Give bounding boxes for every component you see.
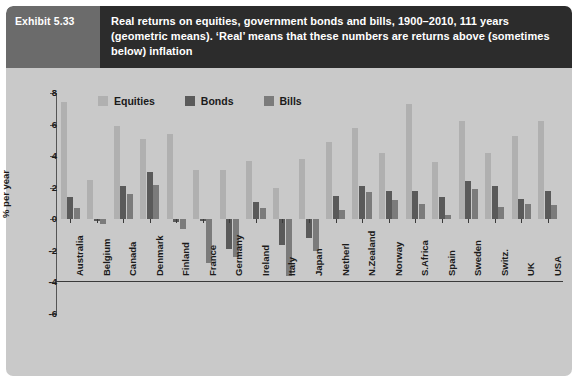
x-axis-label-australia: Australia: [74, 236, 85, 277]
bar-bonds-usa: [545, 191, 551, 219]
bar-bonds-netherl: [333, 196, 339, 220]
bar-equities-france: [193, 170, 199, 219]
bar-bills-spain: [445, 215, 451, 220]
bar-bills-belgium: [100, 219, 106, 224]
y-axis-tick: -6: [6, 314, 57, 315]
x-axis-label-switz: Switz.: [499, 249, 510, 276]
x-axis-tick-mark: [415, 219, 416, 223]
bar-equities-japan: [299, 159, 305, 219]
bar-equities-uk: [512, 136, 518, 220]
bar-bills-japan: [313, 219, 319, 251]
x-axis-label-japan: Japan: [313, 249, 324, 276]
y-axis-tick-label: -4: [31, 276, 57, 287]
y-axis-tick-label: 8: [31, 87, 57, 98]
bar-bonds-ireland: [253, 202, 259, 219]
x-axis-tick-mark: [548, 219, 549, 223]
bar-equities-switz: [485, 153, 491, 219]
bar-bonds-sweden: [465, 181, 471, 219]
bar-bonds-australia: [67, 197, 73, 219]
x-axis-tick-mark: [495, 219, 496, 223]
bar-equities-belgium: [87, 180, 93, 219]
bar-equities-nzealand: [352, 128, 358, 220]
bar-bills-canada: [127, 194, 133, 219]
y-axis-tick-label: 4: [31, 150, 57, 161]
x-axis-label-sweden: Sweden: [472, 240, 483, 276]
x-axis-tick-mark: [521, 219, 522, 223]
exhibit-figure: Exhibit 5.33 Real returns on equities, g…: [0, 0, 578, 382]
exhibit-header: Exhibit 5.33 Real returns on equities, g…: [6, 6, 572, 68]
x-axis-label-denmark: Denmark: [154, 236, 165, 277]
x-axis-tick-mark: [97, 219, 98, 223]
bar-equities-canada: [114, 126, 120, 219]
x-axis-tick-mark: [123, 219, 124, 223]
bar-bonds-germany: [226, 219, 232, 249]
bar-equities-safrica: [406, 104, 412, 219]
bar-bonds-spain: [439, 197, 445, 219]
bar-bills-sweden: [472, 189, 478, 219]
x-axis-tick-mark: [282, 219, 283, 223]
bar-bonds-nzealand: [359, 186, 365, 219]
x-axis-tick-mark: [229, 219, 230, 223]
bar-equities-denmark: [140, 139, 146, 220]
y-axis-tick-label: -2: [31, 245, 57, 256]
bar-bonds-denmark: [147, 172, 153, 219]
bar-bonds-norway: [386, 191, 392, 219]
y-axis-tick: -4: [6, 282, 57, 283]
bar-equities-finland: [167, 134, 173, 219]
bar-bills-switz: [498, 207, 504, 220]
x-axis-label-uk: UK: [525, 263, 536, 277]
bar-equities-usa: [538, 121, 544, 219]
y-axis-tick: 6: [6, 125, 57, 126]
x-axis-label-ireland: Ireland: [260, 245, 271, 276]
x-axis-tick-mark: [389, 219, 390, 223]
bar-equities-netherl: [326, 142, 332, 219]
y-axis-tick-label: 0: [31, 213, 57, 224]
x-axis-tick-mark: [176, 219, 177, 223]
x-axis-label-spain: Spain: [446, 250, 457, 276]
bar-equities-spain: [432, 162, 438, 219]
bar-bills-netherl: [339, 210, 345, 219]
bar-bonds-canada: [120, 186, 126, 219]
bar-equities-germany: [220, 170, 226, 219]
x-axis-label-canada: Canada: [127, 242, 138, 276]
x-axis-tick-mark: [309, 219, 310, 223]
bar-equities-australia: [61, 102, 67, 219]
bar-bills-uk: [525, 204, 531, 220]
bar-equities-ireland: [246, 161, 252, 219]
y-axis-title: % per year: [0, 170, 11, 218]
y-axis-tick-label: -6: [31, 308, 57, 319]
x-axis-label-usa: USA: [552, 256, 563, 276]
bar-bills-finland: [180, 219, 186, 228]
bar-bonds-uk: [518, 199, 524, 220]
x-axis-label-safrica: S.Africa: [419, 240, 430, 276]
bar-bills-denmark: [153, 185, 159, 220]
bar-bills-usa: [551, 205, 557, 219]
exhibit-number-label: Exhibit 5.33: [6, 6, 100, 68]
bar-bills-australia: [74, 208, 80, 219]
y-axis-tick: 0: [6, 219, 57, 220]
y-axis-tick: 4: [6, 156, 57, 157]
x-axis-label-netherl: Netherl: [340, 244, 351, 277]
y-axis-tick-label: 6: [31, 119, 57, 130]
x-axis-tick-mark: [442, 219, 443, 223]
y-axis-tick: 2: [6, 188, 57, 189]
x-axis-label-belgium: Belgium: [101, 239, 112, 276]
bar-bonds-safrica: [412, 191, 418, 219]
bar-bills-norway: [392, 200, 398, 219]
bar-bonds-switz: [492, 186, 498, 219]
bar-equities-norway: [379, 153, 385, 219]
bar-bills-safrica: [419, 204, 425, 220]
x-axis-tick-mark: [203, 219, 204, 223]
bar-equities-italy: [273, 188, 279, 220]
x-axis-label-finland: Finland: [180, 243, 191, 277]
x-axis-tick-mark: [362, 219, 363, 223]
x-axis-tick-mark: [336, 219, 337, 223]
x-axis-label-norway: Norway: [393, 242, 404, 276]
exhibit-title: Real returns on equities, government bon…: [100, 6, 572, 68]
y-axis-tick: 8: [6, 93, 57, 94]
x-axis-label-france: France: [207, 245, 218, 276]
x-axis-tick-mark: [70, 219, 71, 223]
y-axis-tick: -2: [6, 251, 57, 252]
x-axis-label-italy: Italy: [286, 257, 297, 276]
x-axis-tick-mark: [256, 219, 257, 223]
